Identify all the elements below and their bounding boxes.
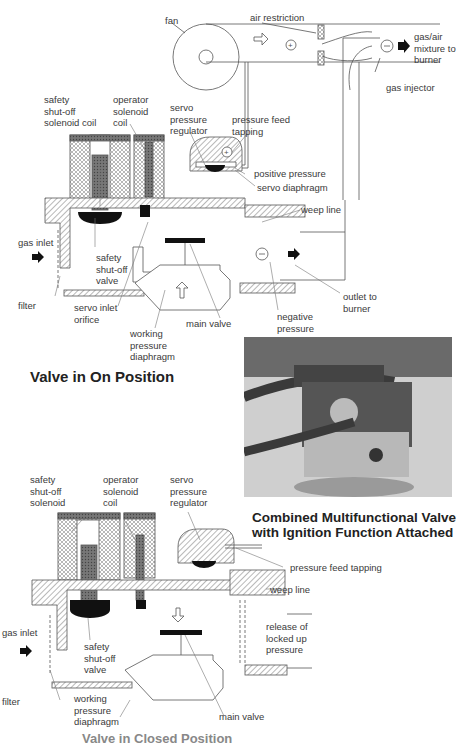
- svg-text:+: +: [224, 148, 229, 157]
- label-main-valve-bottom: main valve: [219, 711, 264, 723]
- label-weep-line: weep line: [301, 204, 341, 216]
- label-filter: filter: [18, 300, 36, 312]
- caption-on-position: Valve in On Position: [30, 368, 174, 385]
- label-working-diaphragm: working pressure diaphragm: [130, 328, 175, 363]
- label-safety-valve: safety shut-off valve: [96, 252, 128, 287]
- label-servo-inlet: servo inlet orifice: [74, 302, 117, 325]
- label-servo-diaphragm: servo diaphragm: [257, 182, 328, 194]
- label-operator-coil-bottom: operator solenoid coil: [103, 474, 138, 509]
- svg-text:+: +: [288, 41, 293, 50]
- caption-closed-position: Valve in Closed Position: [82, 731, 232, 746]
- label-fan: fan: [165, 15, 178, 27]
- label-safety-coil: safety shut-off solenoid coil: [44, 94, 96, 129]
- label-pressure-feed-bottom: pressure feed tapping: [290, 562, 382, 574]
- label-negative-pressure: negative pressure: [277, 311, 314, 334]
- label-positive-pressure: positive pressure: [254, 168, 326, 180]
- label-filter-bottom: filter: [2, 696, 20, 708]
- top-valve-diagram: +: [32, 23, 440, 310]
- label-pressure-feed: pressure feed tapping: [232, 114, 290, 137]
- label-operator-coil: operator solenoid coil: [113, 94, 148, 129]
- label-servo-regulator: servo pressure regulator: [170, 102, 208, 137]
- label-servo-regulator-bottom: servo pressure regulator: [170, 474, 208, 509]
- bottom-valve-diagram: [20, 513, 312, 700]
- label-safety-solenoid: safety shut-off solenoid: [30, 474, 65, 509]
- label-gas-inlet: gas inlet: [18, 237, 53, 249]
- label-gas-air-mixture: gas/air mixture to burner: [414, 31, 456, 66]
- label-working-diaphragm-bottom: working pressure diaphragm: [74, 693, 119, 728]
- caption-photo: Combined Multifunctional Valve with Igni…: [252, 510, 456, 540]
- fan-icon: [173, 24, 239, 90]
- valve-photo: [244, 337, 452, 497]
- label-safety-valve-bottom: safety shut-off valve: [84, 641, 116, 676]
- label-release: release of locked up pressure: [266, 621, 308, 656]
- label-gas-inlet-bottom: gas inlet: [2, 627, 37, 639]
- label-gas-injector: gas injector: [386, 82, 435, 94]
- label-air-restriction: air restriction: [250, 12, 304, 24]
- label-main-valve: main valve: [186, 318, 231, 330]
- valve-photo-illustration: [244, 337, 452, 497]
- label-outlet: outlet to burner: [343, 291, 377, 314]
- label-weep-line-bottom: weep line: [270, 584, 310, 596]
